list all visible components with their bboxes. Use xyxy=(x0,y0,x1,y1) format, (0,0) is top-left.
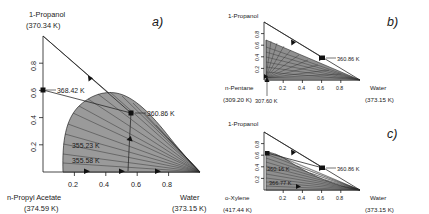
panel-c-y-tick-1: 0.4 xyxy=(254,164,260,171)
panel-c-marker-360-86 xyxy=(321,166,326,171)
panel-b-letter: b) xyxy=(387,15,398,29)
panel-b-marker-360 xyxy=(321,56,326,61)
panel-a-x-tick-0: 0.2 xyxy=(68,180,78,189)
panel-c-y-tick-3: 0.8 xyxy=(254,141,260,148)
panel-a-marker-360 xyxy=(129,111,134,116)
panel-b-left-vertex-temp: (309.20 K) xyxy=(223,96,252,103)
panel-a-x-ticks: 0.2 0.4 0.6 0.8 xyxy=(68,172,172,189)
panel-a-marker-368 xyxy=(41,88,46,93)
panel-c-letter: c) xyxy=(387,127,397,141)
panel-a-y-ticks: 0.2 0.4 0.6 0.8 xyxy=(29,61,43,152)
panel-a-annotation-368: 368.42 K xyxy=(57,87,85,94)
figure-ternary-diagrams: 1-Propanol (370.34 K) a) 0.2 0.4 0.6 0.8… xyxy=(0,0,429,214)
panel-c-annotation-360-86: 360.86 K xyxy=(337,166,360,172)
panel-a-annotation-360: 360.86 K xyxy=(147,110,175,117)
panel-b-y-ticks: 0.2 0.4 0.6 0.8 xyxy=(254,31,264,73)
panel-a-annotation-355-23: 355.23 K xyxy=(72,142,100,149)
panel-a-right-vertex-name: Water xyxy=(180,193,200,202)
panel-c-x-tick-0: 0.2 xyxy=(279,195,286,201)
panel-a: 1-Propanol (370.34 K) a) 0.2 0.4 0.6 0.8… xyxy=(0,0,215,214)
panel-a-x-tick-3: 0.8 xyxy=(162,180,172,189)
panel-c-x-tick-1: 0.4 xyxy=(298,195,305,201)
panel-c-top-vertex-name: 1-Propanol xyxy=(228,120,258,127)
panel-c-left-vertex-name: o-Xylene xyxy=(225,194,250,201)
panel-b-annotation-307: 307.60 K xyxy=(255,98,278,104)
panel-a-y-tick-3: 0.8 xyxy=(29,61,38,71)
panel-c-annotation-366-77: 366.77 K xyxy=(269,180,292,186)
panel-b-right-vertex-temp: (373.15 K) xyxy=(365,96,394,103)
panel-b-left-vertex-name: n-Pentane xyxy=(225,84,254,91)
panel-a-top-vertex-name: 1-Propanol xyxy=(29,10,66,19)
panel-a-left-vertex-name: n-Propyl Acetate xyxy=(7,193,61,202)
panel-c-right-vertex-temp: (373.15 K) xyxy=(365,206,394,213)
panel-c-y-ticks: 0.2 0.4 0.6 0.8 xyxy=(254,141,264,183)
panel-b-x-tick-2: 0.6 xyxy=(317,85,324,91)
panel-b-top-vertex-name: 1-Propanol xyxy=(228,12,258,19)
panel-c-annotation-360-16: 360.16 K xyxy=(267,166,290,172)
panel-c-marker-360-16 xyxy=(265,151,270,156)
panel-c-x-tick-2: 0.6 xyxy=(317,195,324,201)
panel-a-top-vertex-temp: (370.34 K) xyxy=(26,21,61,30)
panel-b-y-tick-2: 0.6 xyxy=(254,42,260,49)
panel-b-x-tick-0: 0.2 xyxy=(279,85,286,91)
panel-b-x-ticks: 0.2 0.4 0.6 0.8 xyxy=(279,80,343,91)
panel-a-x-tick-1: 0.4 xyxy=(99,180,109,189)
panel-c-left-vertex-temp: (417.44 K) xyxy=(223,206,252,213)
panel-a-y-tick-1: 0.4 xyxy=(29,115,38,125)
panel-b-x-tick-1: 0.4 xyxy=(298,85,305,91)
panel-a-right-vertex-temp: (373.15 K) xyxy=(172,204,207,213)
panel-b-y-tick-3: 0.8 xyxy=(254,31,260,38)
panel-b-x-tick-3: 0.8 xyxy=(336,85,343,91)
panel-a-x-tick-2: 0.6 xyxy=(131,180,141,189)
panel-b-right-vertex-name: Water xyxy=(370,84,386,91)
panel-c-x-ticks: 0.2 0.4 0.6 0.8 xyxy=(279,190,343,201)
panel-a-annotation-355-58: 355.58 K xyxy=(72,157,100,164)
panel-c-y-tick-0: 0.2 xyxy=(254,176,260,183)
panel-b-y-tick-0: 0.2 xyxy=(254,66,260,73)
panel-a-left-vertex-temp: (374.59 K) xyxy=(24,204,59,213)
panel-a-y-tick-0: 0.2 xyxy=(29,142,38,152)
panel-b-y-tick-1: 0.4 xyxy=(254,54,260,61)
panel-c-right-vertex-name: Water xyxy=(370,194,386,201)
panel-a-y-tick-2: 0.6 xyxy=(29,88,38,98)
panel-c-y-tick-2: 0.6 xyxy=(254,152,260,159)
panel-c-x-tick-3: 0.8 xyxy=(336,195,343,201)
panel-c: 1-Propanol c) 0.2 0.4 0.6 0.8 0.2 0.4 0.… xyxy=(215,108,429,214)
panel-a-letter: a) xyxy=(152,15,163,29)
panel-b: 1-Propanol b) 0.2 0.4 0.6 0.8 0.2 0.4 0.… xyxy=(215,0,429,108)
panel-b-annotation-360: 360.86 K xyxy=(337,56,360,62)
